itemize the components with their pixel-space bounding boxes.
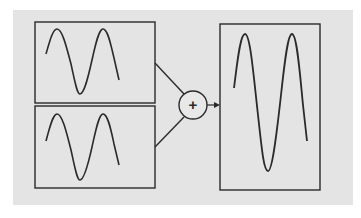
output-wave-box bbox=[220, 24, 320, 190]
sine-wave-b bbox=[46, 114, 119, 180]
sine-wave-sum bbox=[234, 34, 307, 171]
input-wave-a-box bbox=[35, 22, 155, 103]
arrow-head-icon bbox=[214, 102, 220, 108]
superposition-diagram: + bbox=[0, 0, 361, 218]
connector-a bbox=[155, 63, 184, 94]
input-wave-b-box bbox=[35, 106, 155, 188]
plus-symbol: + bbox=[189, 96, 198, 113]
sine-wave-a bbox=[46, 29, 119, 94]
connector-b bbox=[155, 117, 184, 147]
sum-operator: + bbox=[179, 91, 207, 119]
